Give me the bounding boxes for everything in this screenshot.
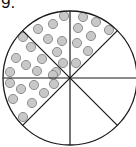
dot [18, 112, 27, 121]
dot [5, 78, 14, 87]
dot [32, 66, 41, 75]
dot [73, 23, 82, 32]
dot [57, 36, 66, 45]
dot [49, 79, 58, 88]
dot [48, 19, 57, 28]
dot [21, 60, 30, 69]
dot [8, 94, 17, 103]
dot [91, 17, 100, 26]
dot [33, 24, 42, 33]
dot [27, 98, 36, 107]
dot [83, 46, 92, 55]
dot [71, 58, 80, 67]
dot [16, 84, 25, 93]
dot [78, 12, 87, 21]
dot [26, 42, 35, 51]
fraction-circle-diagram [0, 0, 136, 147]
dot [37, 54, 46, 63]
dot [58, 58, 67, 67]
dot [59, 11, 68, 20]
dot [5, 67, 14, 76]
dot [86, 31, 95, 40]
dot [29, 80, 38, 89]
dot [72, 38, 81, 47]
dot [11, 53, 20, 62]
dot [39, 88, 48, 97]
dot [43, 34, 52, 43]
dot [52, 47, 61, 56]
